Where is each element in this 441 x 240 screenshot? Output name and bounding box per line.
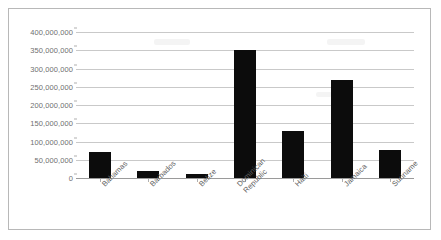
y-axis-tick-label: 200,000,000 bbox=[30, 101, 73, 110]
bar[interactable] bbox=[331, 80, 353, 178]
y-axis-tick-mark bbox=[74, 28, 77, 29]
bar-slot bbox=[317, 32, 365, 178]
bar-slot bbox=[173, 32, 221, 178]
y-axis-tick-label: 300,000,000 bbox=[30, 64, 73, 73]
y-axis-tick-label: 400,000,000 bbox=[30, 28, 73, 37]
bar-slot bbox=[76, 32, 124, 178]
bar[interactable] bbox=[282, 131, 304, 178]
bar-slot bbox=[221, 32, 269, 178]
bar[interactable] bbox=[234, 50, 256, 178]
bar-slot bbox=[124, 32, 172, 178]
y-axis-tick-label: 100,000,000 bbox=[30, 137, 73, 146]
y-axis-tick-label: 50,000,000 bbox=[34, 155, 73, 164]
chart-frame: 400,000,000350,000,000300,000,000250,000… bbox=[8, 8, 431, 230]
bar-slot bbox=[269, 32, 317, 178]
y-axis-tick-label: 250,000,000 bbox=[30, 82, 73, 91]
y-axis-tick-label: 350,000,000 bbox=[30, 46, 73, 55]
plot-area bbox=[76, 32, 414, 178]
y-axis-tick-label: 0 bbox=[69, 174, 73, 183]
bar-slot bbox=[366, 32, 414, 178]
x-axis: BahamasBarbadosBelizeDominicanRepublicHa… bbox=[76, 179, 414, 229]
y-axis-tick-label: 150,000,000 bbox=[30, 119, 73, 128]
y-axis: 400,000,000350,000,000300,000,000250,000… bbox=[23, 32, 73, 178]
